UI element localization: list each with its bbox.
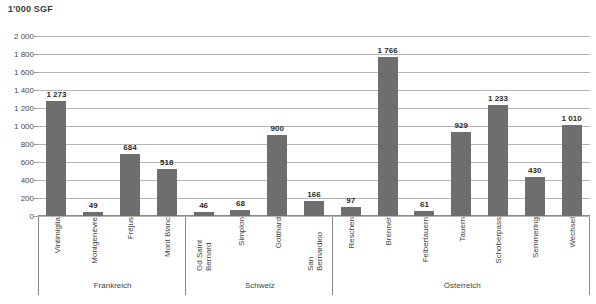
x-axis-category-text: Felbertauern [421, 217, 430, 264]
x-axis-category-label: Mont Blanc [149, 217, 186, 275]
bar[interactable] [46, 101, 66, 216]
bar-slot: 518 [148, 36, 185, 216]
bar-slot: 929 [443, 36, 480, 216]
caption-sliver [10, 297, 590, 304]
x-axis-category-label: Simplon [223, 217, 260, 275]
bar[interactable] [525, 177, 545, 216]
x-axis-category-text: Schoberpass [494, 217, 503, 266]
bar-value-label: 166 [307, 190, 320, 199]
x-axis-category-text: Simplon [237, 217, 246, 248]
bar-slot: 166 [296, 36, 333, 216]
x-axis-category-label: Montgenèvre [76, 217, 113, 275]
group-separator [332, 275, 333, 295]
bar-value-label: 1 010 [562, 114, 582, 123]
bar[interactable] [341, 207, 361, 216]
bar[interactable] [120, 154, 140, 216]
group-separator [185, 275, 186, 295]
x-axis-category-label: Reschen [333, 217, 370, 275]
bar[interactable] [562, 125, 582, 216]
bar[interactable] [230, 210, 250, 216]
x-axis-group-label: Frankreich [39, 275, 186, 295]
bar-value-label: 684 [123, 143, 136, 152]
bar-slot: 49 [75, 36, 112, 216]
category-label-band: VintimigliaMontgenèvreFréjusMont BlancGd… [38, 217, 590, 275]
x-axis-category-text: Fréjus [126, 217, 135, 241]
y-axis-tick-label: 2 000 [0, 32, 34, 41]
x-axis-category-text: Brenner [384, 217, 393, 247]
x-axis-category-text: Mont Blanc [163, 217, 172, 259]
y-axis-tick-label: 600 [0, 158, 34, 167]
x-axis-category-label: Schoberpass [481, 217, 518, 275]
y-axis-tick-label: 400 [0, 176, 34, 185]
group-separator [185, 217, 186, 275]
x-axis-category-label: Brenner [370, 217, 407, 275]
x-axis-category-text: Reschen [347, 217, 356, 251]
bar[interactable] [83, 212, 103, 216]
bar[interactable] [451, 132, 471, 216]
x-axis-category-text: Wechsel [568, 217, 577, 250]
bar-slot: 684 [112, 36, 149, 216]
bar-slot: 1 273 [38, 36, 75, 216]
y-axis-tick-label: 1 800 [0, 50, 34, 59]
x-axis-category-text: Gd Saint Bernard [195, 217, 213, 273]
bar-value-label: 1 233 [488, 94, 508, 103]
x-axis-category-label: San Bernardino [297, 217, 334, 275]
bar[interactable] [488, 105, 508, 216]
y-axis-tick-label: 800 [0, 140, 34, 149]
group-label-band: FrankreichSchweizÖsterreich [38, 275, 590, 295]
x-axis-category-label: Tauern [444, 217, 481, 275]
y-axis-tick-label: 1 000 [0, 122, 34, 131]
x-axis-category-label: Wechsel [554, 217, 591, 275]
bar-slot: 900 [259, 36, 296, 216]
y-axis-tick-label: 1 600 [0, 68, 34, 77]
bar-value-label: 46 [199, 201, 208, 210]
y-axis-tick-label: 0 [0, 212, 34, 221]
bar-chart: 1'000 SGF 02004006008001 0001 2001 4001 … [0, 0, 596, 304]
bar[interactable] [378, 57, 398, 216]
y-axis: 02004006008001 0001 2001 4001 6001 8002 … [0, 36, 34, 216]
bar-slot: 1 233 [480, 36, 517, 216]
x-axis-category-label: Felbertauern [407, 217, 444, 275]
bar-value-label: 97 [346, 196, 355, 205]
x-axis-category-text: San Bernardino [306, 217, 324, 273]
bar[interactable] [194, 212, 214, 216]
y-axis-tick-label: 200 [0, 194, 34, 203]
x-axis-group-label: Schweiz [186, 275, 333, 295]
bar-value-label: 1 273 [46, 90, 66, 99]
bar-slot: 97 [332, 36, 369, 216]
x-axis-group-label: Österreich [333, 275, 591, 295]
bar-slot: 61 [406, 36, 443, 216]
bar-slot: 46 [185, 36, 222, 216]
bar-slot: 68 [222, 36, 259, 216]
x-axis-category-text: Montgenèvre [90, 217, 99, 266]
y-axis-tick-label: 1 400 [0, 86, 34, 95]
bar[interactable] [267, 135, 287, 216]
bar-value-label: 518 [160, 158, 173, 167]
bar-value-label: 929 [455, 121, 468, 130]
x-axis-category-label: Semmering [517, 217, 554, 275]
y-axis-tick-label: 1 200 [0, 104, 34, 113]
x-axis-category-label: Fréjus [113, 217, 150, 275]
x-axis-category-label: Gotthard [260, 217, 297, 275]
bar-slot: 430 [516, 36, 553, 216]
bar-value-label: 1 766 [378, 46, 398, 55]
bar-value-label: 61 [420, 200, 429, 209]
bar-value-label: 68 [236, 199, 245, 208]
bar[interactable] [304, 201, 324, 216]
group-separator [332, 217, 333, 275]
x-axis-category-label: Vintimiglia [39, 217, 76, 275]
x-axis-category-text: Gotthard [274, 217, 283, 250]
x-axis-category-label: Gd Saint Bernard [186, 217, 223, 275]
bar[interactable] [414, 211, 434, 216]
x-axis-category-text: Semmering [531, 217, 540, 260]
bar-value-label: 49 [89, 201, 98, 210]
x-axis-category-text: Vintimiglia [53, 217, 62, 255]
x-axis-category-text: Tauern [458, 217, 467, 243]
chart-title: 1'000 SGF [8, 4, 53, 14]
bar-value-label: 900 [271, 124, 284, 133]
bar-slot: 1 010 [553, 36, 590, 216]
bar-value-label: 430 [528, 166, 541, 175]
bar[interactable] [157, 169, 177, 216]
bar-slot: 1 766 [369, 36, 406, 216]
bars-layer: 1 273496845184668900166971 766619291 233… [38, 36, 590, 216]
